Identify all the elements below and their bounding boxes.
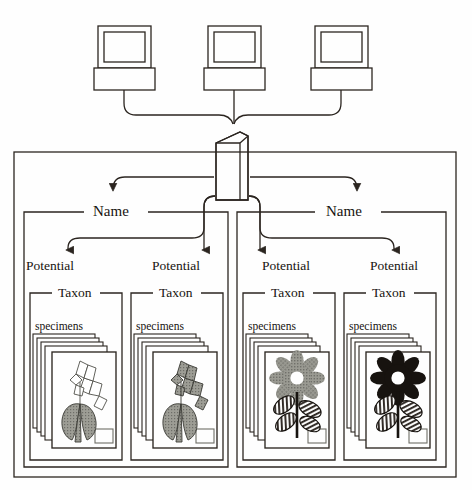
taxon-label-3: Taxon bbox=[267, 285, 309, 301]
arrow-name-right-to-potential-1 bbox=[249, 196, 260, 250]
name-group-left-label: Name bbox=[88, 203, 134, 220]
cable-client3-to-server bbox=[234, 90, 341, 124]
client-workstation-1-icon bbox=[94, 26, 155, 90]
potential-label-3: Potential bbox=[262, 258, 310, 274]
specimens-label-4: specimens bbox=[349, 320, 397, 332]
name-group-right-label: Name bbox=[321, 203, 367, 220]
potential-label-2: Potential bbox=[152, 258, 200, 274]
specimens-label-3: specimens bbox=[248, 320, 296, 332]
diagram-canvas: Name Name Potential Potential Potential … bbox=[0, 0, 472, 490]
arrow-server-to-name-left bbox=[113, 177, 214, 189]
potential-label-4: Potential bbox=[370, 258, 418, 274]
database-server-icon bbox=[216, 132, 248, 200]
specimens-label-1: specimens bbox=[35, 320, 83, 332]
potential-label-1: Potential bbox=[26, 258, 74, 274]
arrow-name-left-to-potential-2 bbox=[204, 196, 215, 250]
arrow-server-to-name-right bbox=[250, 177, 357, 189]
taxon-label-2: Taxon bbox=[155, 285, 197, 301]
illustration-daisy-black-icon bbox=[370, 350, 426, 438]
client-workstation-2-icon bbox=[204, 26, 265, 90]
specimens-label-2: specimens bbox=[136, 320, 184, 332]
diagram-svg bbox=[0, 0, 472, 490]
taxon-label-1: Taxon bbox=[54, 285, 96, 301]
client-workstation-3-icon bbox=[311, 26, 372, 90]
illustration-daisy-gray-icon bbox=[269, 350, 325, 438]
cable-client1-to-server bbox=[124, 90, 233, 124]
taxon-label-4: Taxon bbox=[368, 285, 410, 301]
